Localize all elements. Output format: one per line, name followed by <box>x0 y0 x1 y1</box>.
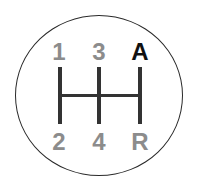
gear-label-r: R <box>129 132 151 152</box>
gear-label-2: 2 <box>48 132 70 152</box>
gear-label-4: 4 <box>88 132 110 152</box>
shift-gate-neutral-line <box>60 94 141 97</box>
gear-label-a: A <box>129 42 151 62</box>
gear-label-1: 1 <box>48 42 70 62</box>
gear-label-3: 3 <box>88 42 110 62</box>
